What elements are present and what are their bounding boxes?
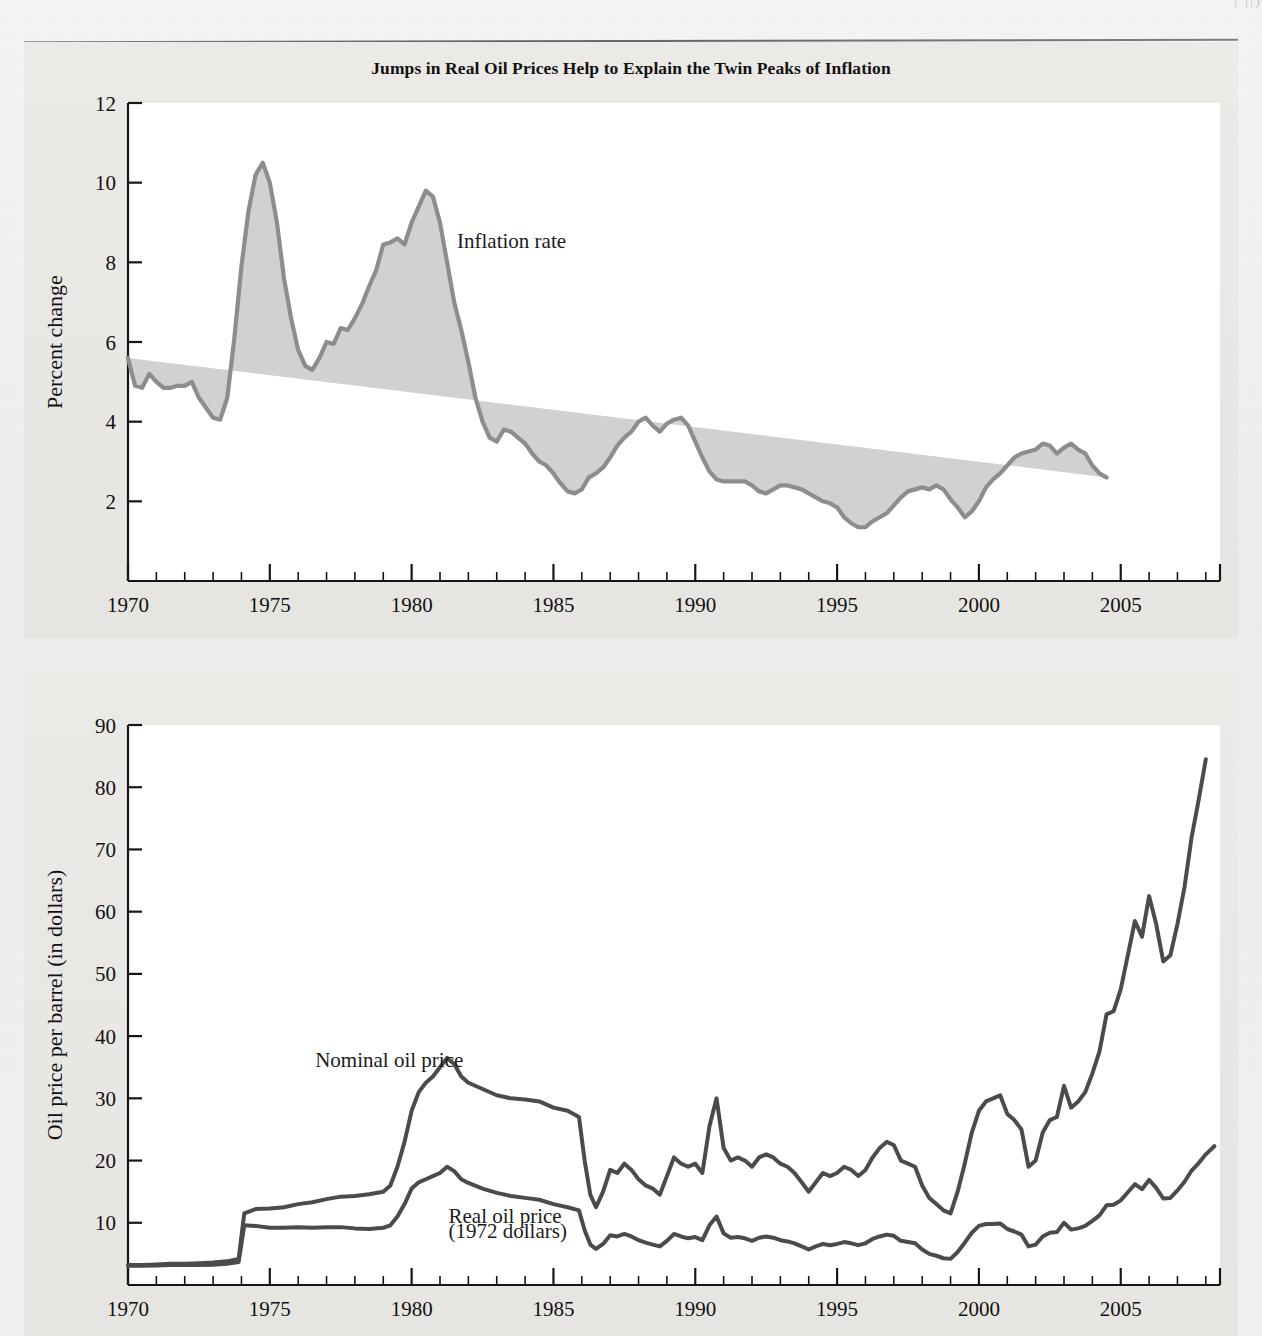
x-tick-label: 1970 [107, 593, 149, 617]
y-tick-label: 12 [95, 92, 116, 116]
chart-inflation-rate: 2468101219701975198019851990199520002005… [0, 0, 1262, 640]
y-tick-label: 40 [95, 1025, 116, 1049]
series-annotation-2: (1972 dollars) [449, 1219, 567, 1243]
y-tick-label: 70 [95, 838, 116, 862]
y-tick-label: 8 [106, 251, 117, 275]
y-tick-label: 4 [106, 410, 117, 434]
y-axis-title: Percent change [42, 275, 67, 409]
x-tick-label: 1990 [674, 1297, 716, 1321]
y-tick-label: 80 [95, 776, 116, 800]
x-tick-label: 2000 [958, 1297, 1000, 1321]
y-tick-label: 10 [95, 1211, 116, 1235]
series-line-0 [128, 759, 1206, 1265]
series-annotation-0: Inflation rate [457, 229, 566, 253]
x-tick-label: 1995 [816, 593, 858, 617]
y-tick-label: 2 [106, 490, 117, 514]
x-tick-label: 1970 [107, 1297, 149, 1321]
x-tick-label: 1975 [249, 593, 291, 617]
y-tick-label: 60 [95, 900, 116, 924]
x-tick-label: 1985 [532, 1297, 574, 1321]
x-tick-label: 1980 [391, 593, 433, 617]
y-tick-label: 50 [95, 962, 116, 986]
y-tick-label: 20 [95, 1149, 116, 1173]
series-annotation-0: Nominal oil price [315, 1048, 463, 1072]
x-tick-label: 1995 [816, 1297, 858, 1321]
x-tick-label: 1990 [674, 593, 716, 617]
y-axis-title: Oil price per barrel (in dollars) [42, 870, 67, 1141]
x-tick-label: 2005 [1100, 593, 1142, 617]
chart-oil-prices: 1020304050607080901970197519801985199019… [0, 640, 1262, 1336]
x-tick-label: 1980 [391, 1297, 433, 1321]
y-tick-label: 90 [95, 714, 116, 738]
x-tick-label: 2000 [958, 593, 1000, 617]
x-tick-label: 1985 [532, 593, 574, 617]
x-tick-label: 2005 [1100, 1297, 1142, 1321]
y-tick-label: 6 [106, 331, 117, 355]
x-tick-label: 1975 [249, 1297, 291, 1321]
y-tick-label: 10 [95, 171, 116, 195]
y-tick-label: 30 [95, 1087, 116, 1111]
